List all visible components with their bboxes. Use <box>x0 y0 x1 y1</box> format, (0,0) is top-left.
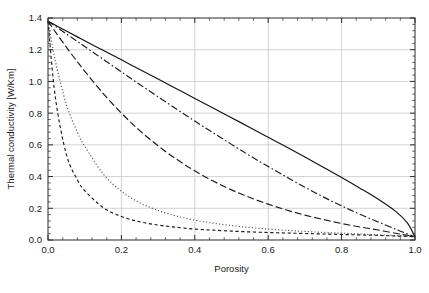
chart-figure: 0.00.20.40.60.81.0 0.00.20.40.60.81.01.2… <box>0 0 429 293</box>
x-tick-label: 0.0 <box>41 244 54 255</box>
y-tick-label: 1.4 <box>29 12 42 23</box>
y-tick-label: 0.0 <box>29 234 42 245</box>
x-tick-label: 0.4 <box>188 244 201 255</box>
thermal-conductivity-porosity-chart: 0.00.20.40.60.81.0 0.00.20.40.60.81.01.2… <box>0 0 429 293</box>
plot-background <box>48 18 415 240</box>
y-axis-tick-labels: 0.00.20.40.60.81.01.21.4 <box>29 12 42 245</box>
x-tick-label: 0.6 <box>262 244 275 255</box>
x-axis-tick-labels: 0.00.20.40.60.81.0 <box>41 244 421 255</box>
y-axis-title: Thermal conductivity [W/Km] <box>5 69 16 190</box>
y-tick-label: 0.6 <box>29 139 42 150</box>
y-tick-label: 0.8 <box>29 108 42 119</box>
y-tick-label: 0.2 <box>29 203 42 214</box>
x-tick-label: 1.0 <box>408 244 421 255</box>
x-tick-label: 0.2 <box>115 244 128 255</box>
y-tick-label: 1.0 <box>29 76 42 87</box>
x-axis-title: Porosity <box>214 263 249 274</box>
x-tick-label: 0.8 <box>335 244 348 255</box>
y-tick-label: 0.4 <box>29 171 42 182</box>
y-tick-label: 1.2 <box>29 44 42 55</box>
